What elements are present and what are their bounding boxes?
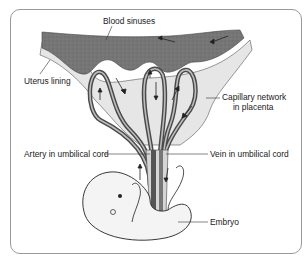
- label-capillary-line2: in placenta: [233, 103, 274, 111]
- label-artery: Artery in umbilical cord: [24, 150, 109, 158]
- label-blood-sinuses: Blood sinuses: [103, 17, 155, 25]
- label-uterus-lining: Uterus lining: [24, 77, 71, 85]
- embryo-leg: [168, 166, 184, 210]
- placenta-illustration: [0, 0, 308, 262]
- cord-artery: [151, 150, 156, 215]
- embryo-eye: [118, 194, 122, 198]
- label-embryo: Embryo: [210, 218, 239, 226]
- cord-vein: [159, 150, 163, 215]
- label-vein: Vein in umbilical cord: [210, 150, 289, 158]
- label-capillary-line1: Capillary network: [222, 93, 286, 101]
